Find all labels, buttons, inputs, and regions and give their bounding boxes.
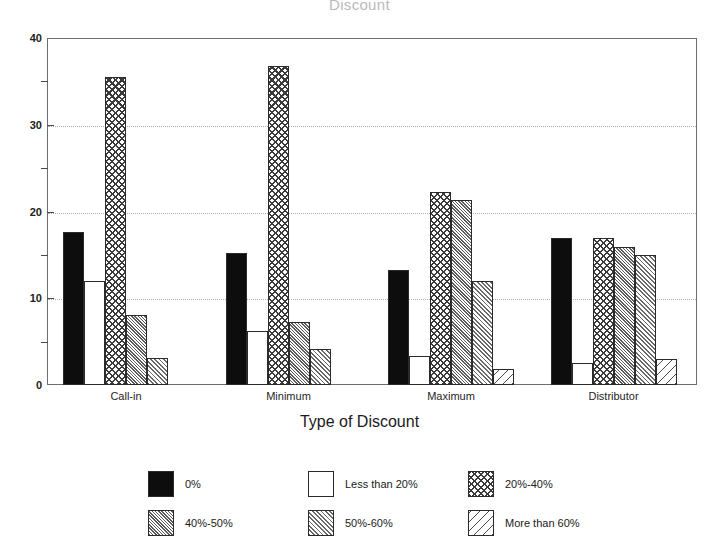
legend-swatch-icon: [468, 471, 494, 497]
chart-title: Discount: [0, 0, 719, 13]
x-tick-label-minimum: Minimum: [266, 390, 311, 402]
legend-label: Less than 20%: [345, 478, 418, 490]
bar-series-layer: [47, 38, 697, 385]
bar-maximum-more-than-60-: [493, 369, 514, 385]
bar-maximum-less-than-20-: [409, 356, 430, 385]
x-tick-label-distributor: Distributor: [588, 390, 638, 402]
legend-item-50-60-[interactable]: 50%-60%: [308, 505, 468, 537]
x-tick-label-call-in: Call-in: [110, 390, 141, 402]
bar-minimum-less-than-20-: [247, 331, 268, 385]
legend-label: 40%-50%: [185, 517, 233, 529]
legend-item-40-50-[interactable]: 40%-50%: [148, 505, 308, 537]
bar-group-minimum: [210, 38, 373, 385]
bar-call-in-40-50-: [126, 315, 147, 385]
legend-label: 0%: [185, 478, 201, 490]
bar-minimum-40-50-: [289, 322, 310, 385]
x-tick-label-maximum: Maximum: [427, 390, 475, 402]
legend-label: 20%-40%: [505, 478, 553, 490]
bar-maximum-20-40-: [430, 192, 451, 385]
chart-legend: 0%Less than 20%20%-40%40%-50%50%-60%More…: [148, 466, 578, 537]
legend-swatch-icon: [148, 471, 174, 497]
legend-label: More than 60%: [505, 517, 580, 529]
bar-group-distributor: [535, 38, 698, 385]
bar-distributor-20-40-: [593, 238, 614, 385]
bar-distributor-more-than-60-: [656, 359, 677, 385]
legend-item-less-than-20-[interactable]: Less than 20%: [308, 466, 468, 502]
bar-group-maximum: [372, 38, 535, 385]
bar-distributor-less-than-20-: [572, 363, 593, 385]
bar-call-in-0-: [63, 232, 84, 385]
bar-maximum-0-: [388, 270, 409, 385]
y-tick-label-30: 30: [2, 119, 42, 131]
legend-swatch-icon: [148, 510, 174, 536]
legend-swatch-icon: [308, 471, 334, 497]
bar-minimum-20-40-: [268, 66, 289, 385]
legend-item-20-40-[interactable]: 20%-40%: [468, 466, 628, 502]
bar-distributor-50-60-: [635, 255, 656, 385]
bar-minimum-50-60-: [310, 349, 331, 385]
bar-minimum-0-: [226, 253, 247, 385]
x-axis-title: Type of Discount: [0, 413, 719, 431]
bar-maximum-40-50-: [451, 200, 472, 385]
legend-item-0-[interactable]: 0%: [148, 466, 308, 502]
legend-swatch-icon: [468, 510, 494, 536]
bar-call-in-50-60-: [147, 358, 168, 385]
bar-distributor-0-: [551, 238, 572, 385]
y-tick-label-20: 20: [2, 206, 42, 218]
bar-call-in-20-40-: [105, 77, 126, 385]
bar-group-call-in: [47, 38, 210, 385]
legend-item-more-than-60-[interactable]: More than 60%: [468, 505, 628, 537]
y-tick-label-40: 40: [2, 32, 42, 44]
y-axis: 010203040: [0, 38, 42, 385]
bar-distributor-40-50-: [614, 247, 635, 385]
bar-maximum-50-60-: [472, 281, 493, 385]
legend-swatch-icon: [308, 510, 334, 536]
y-tick-label-10: 10: [2, 292, 42, 304]
bar-call-in-less-than-20-: [84, 281, 105, 385]
y-tick-label-0: 0: [2, 379, 42, 391]
x-axis: Call-inMinimumMaximumDistributor: [47, 390, 697, 408]
legend-label: 50%-60%: [345, 517, 393, 529]
